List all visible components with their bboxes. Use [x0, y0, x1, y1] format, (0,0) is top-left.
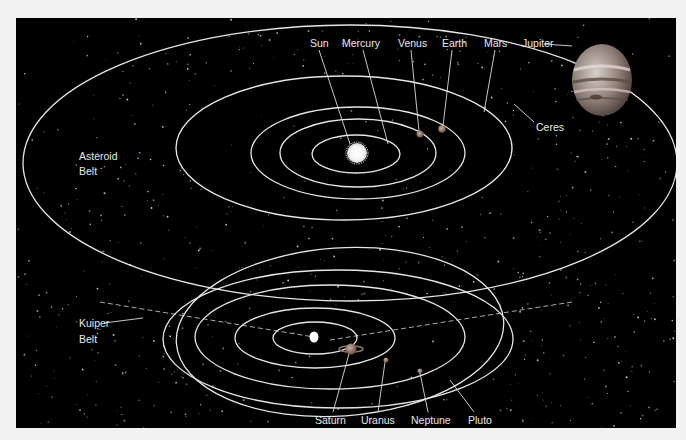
venus-planet	[417, 131, 424, 138]
neptune-planet	[418, 369, 423, 374]
uranus-planet	[384, 358, 389, 363]
label-kuiper-belt-2: Belt	[79, 333, 97, 345]
sun-outer	[310, 332, 319, 343]
label-venus: Venus	[398, 37, 427, 49]
label-uranus: Uranus	[361, 414, 395, 426]
label-saturn: Saturn	[315, 414, 346, 426]
label-jupiter: Jupiter	[522, 37, 554, 49]
label-pluto: Pluto	[468, 414, 492, 426]
jupiter-planet	[572, 44, 632, 116]
solar-system-diagram: Sun Mercury Venus Earth Mars Jupiter Cer…	[0, 0, 686, 440]
label-earth: Earth	[442, 37, 467, 49]
label-mars: Mars	[484, 37, 507, 49]
label-ceres: Ceres	[536, 121, 564, 133]
earth-planet	[438, 125, 446, 133]
label-asteroid-belt-2: Belt	[79, 165, 97, 177]
label-asteroid-belt-1: Asteroid	[79, 150, 118, 162]
label-sun: Sun	[310, 37, 329, 49]
label-mercury: Mercury	[342, 37, 381, 49]
label-kuiper-belt-1: Kuiper	[79, 317, 110, 329]
label-neptune: Neptune	[411, 414, 451, 426]
